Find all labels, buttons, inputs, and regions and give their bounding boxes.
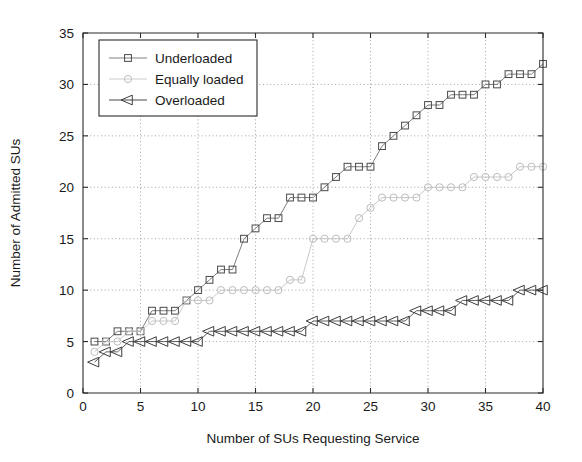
y-tick-label: 5 [66,335,74,350]
y-tick-label: 15 [59,232,74,247]
y-tick-label: 10 [59,283,74,298]
legend-label: Overloaded [155,93,225,108]
series-overloaded [88,285,548,367]
line-chart-plot: 051015202530354005101520253035 Underload… [0,0,582,462]
legend-label: Equally loaded [155,72,244,87]
chart-figure: 051015202530354005101520253035 Underload… [0,0,582,462]
x-tick-label: 0 [79,399,87,414]
y-tick-label: 0 [66,386,74,401]
series-polyline [95,290,544,362]
y-tick-label: 25 [59,129,74,144]
x-tick-label: 25 [363,399,378,414]
y-tick-label: 30 [59,77,74,92]
x-tick-label: 10 [190,399,205,414]
x-tick-label: 15 [248,399,263,414]
chart-legend: UnderloadedEqually loadedOverloaded [99,40,257,116]
x-axis-title: Number of SUs Requesting Service [206,431,419,446]
y-axis-title: Number of Admitted SUs [8,138,23,287]
x-tick-label: 35 [478,399,493,414]
x-tick-label: 40 [535,399,550,414]
x-tick-label: 5 [137,399,145,414]
triangle-left-marker-icon [88,357,99,367]
y-tick-label: 20 [59,180,74,195]
x-tick-label: 20 [305,399,320,414]
y-tick-label: 35 [59,26,74,41]
legend-label: Underloaded [155,51,232,66]
x-tick-label: 30 [420,399,435,414]
